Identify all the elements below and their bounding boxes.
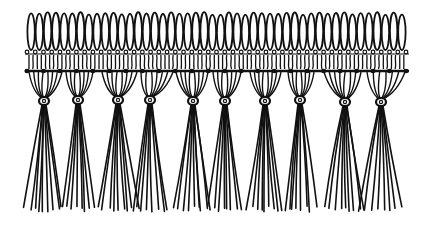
loop [200, 12, 207, 50]
loop [332, 13, 339, 50]
band-cord [239, 55, 240, 69]
bead [165, 50, 169, 54]
bead [83, 50, 87, 54]
band-cord [337, 55, 338, 69]
tassel-cord [262, 72, 264, 98]
loop [159, 14, 166, 50]
loop [258, 13, 265, 50]
bead [42, 50, 46, 54]
knot-bead [123, 69, 128, 73]
loop [250, 13, 257, 50]
band-cord [260, 55, 261, 69]
band-cord [387, 55, 388, 69]
tassel-cord [300, 72, 302, 97]
band-cord [267, 55, 268, 69]
bead [25, 50, 29, 54]
band-cord [131, 55, 132, 69]
bead [330, 50, 334, 54]
loop [266, 14, 273, 50]
bead [379, 50, 383, 54]
macrame-fringe-illustration [0, 0, 432, 232]
bead [338, 50, 342, 54]
bead [396, 50, 400, 54]
loop [176, 14, 183, 50]
tassel-cord [225, 72, 228, 98]
loop [299, 15, 306, 50]
loop [167, 12, 174, 50]
tassel-knot [39, 97, 49, 105]
bead [347, 50, 351, 54]
bead [281, 50, 285, 54]
tassel-knot [295, 96, 305, 104]
loop [275, 14, 282, 50]
loop [382, 15, 389, 50]
bead [223, 50, 227, 54]
tassel-cord [222, 72, 225, 98]
bead [108, 50, 112, 54]
bead [256, 50, 260, 54]
bead [91, 50, 95, 54]
loop [308, 13, 315, 50]
tassel-knot [145, 96, 155, 104]
loop [184, 13, 191, 50]
looped-heading [27, 12, 405, 50]
band-cord [206, 55, 207, 69]
loop [192, 13, 199, 50]
tassel-strand [77, 104, 78, 207]
bead [371, 50, 375, 54]
bead [66, 50, 70, 54]
band-cord [107, 55, 108, 69]
band-cord [210, 55, 211, 69]
loop [373, 12, 380, 50]
band-cord [65, 55, 66, 69]
tassel-strand [117, 104, 118, 210]
tassel [246, 72, 282, 212]
band-cord [313, 55, 314, 69]
bead [174, 50, 178, 54]
bead [33, 50, 37, 54]
tassel-strand [364, 106, 379, 210]
bead [264, 50, 268, 54]
tassel [133, 72, 173, 212]
band-cord [288, 55, 289, 69]
bead [190, 50, 194, 54]
band-cord [300, 55, 301, 69]
loop [27, 13, 34, 50]
bead [75, 50, 79, 54]
bead [314, 50, 318, 54]
bead [363, 50, 367, 54]
tassel [62, 72, 94, 212]
loop [60, 13, 67, 50]
bead [322, 50, 326, 54]
bead [297, 50, 301, 54]
tassel-cord [193, 72, 195, 98]
tassel-cord [378, 72, 380, 99]
band-cord [148, 55, 149, 69]
loop [135, 12, 142, 50]
band-cord [231, 55, 232, 69]
bead [157, 50, 161, 54]
bead [355, 50, 359, 54]
band-cord [395, 55, 396, 69]
loop [102, 13, 109, 50]
loop [44, 12, 51, 50]
band-cord [321, 55, 322, 69]
tassel-cord [344, 72, 346, 99]
loop [69, 14, 76, 50]
tassel [324, 72, 364, 211]
loop [340, 12, 347, 50]
band-cord [378, 55, 379, 69]
band-cord [152, 55, 153, 69]
band-cord [53, 55, 54, 69]
bead [99, 50, 103, 54]
band-cord [370, 55, 371, 69]
loop [52, 13, 59, 50]
loop [316, 13, 323, 50]
tassel-knot [376, 98, 386, 106]
bead [272, 50, 276, 54]
band-cord [226, 55, 227, 69]
band-cord [350, 55, 351, 69]
knot-bead [354, 69, 359, 73]
bead [149, 50, 153, 54]
tassel-knot [113, 96, 123, 104]
